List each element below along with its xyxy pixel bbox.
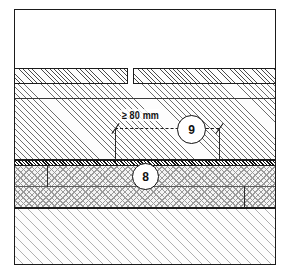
screed-upper-division-line	[15, 98, 276, 99]
insulation-joint-right	[244, 186, 245, 208]
layer-screed	[15, 84, 275, 160]
callout-marker-9[interactable]: 9	[177, 115, 206, 144]
layer-tile-covering-right	[133, 68, 276, 84]
covering-butt-joint	[128, 68, 133, 84]
callout-9-label: 9	[188, 124, 195, 136]
layer-tile-covering-left	[15, 68, 128, 84]
insulation-joint-left	[47, 166, 48, 187]
layer-structural-slab	[15, 208, 275, 265]
drawing-frame: ≥ 80 mm 9 8	[14, 9, 276, 265]
callout-marker-8[interactable]: 8	[132, 163, 159, 190]
layer-void-above	[15, 10, 275, 68]
technical-drawing-figure: ≥ 80 mm 9 8	[0, 0, 287, 277]
callout-8-label: 8	[142, 171, 149, 183]
